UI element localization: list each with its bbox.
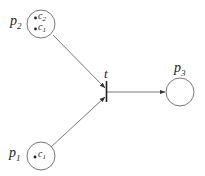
arc-p1-to-t	[51, 97, 105, 147]
svg-text:c1: c1	[38, 148, 46, 161]
arc-p2-to-t	[53, 35, 105, 88]
svg-text:p1: p1	[8, 145, 21, 163]
petri-net-diagram: t p2 c2 c1 p1 c1 p3	[0, 0, 205, 176]
place-p1: p1 c1	[8, 142, 55, 170]
place-p2-label: p	[9, 13, 17, 28]
transition-t-label: t	[104, 66, 108, 81]
token-icon	[34, 17, 37, 20]
place-p1-label: p	[8, 145, 16, 160]
svg-text:p3: p3	[173, 60, 186, 78]
place-p3: p3	[166, 60, 194, 106]
place-p2: p2 c2 c1	[9, 10, 55, 38]
token-icon	[34, 156, 37, 159]
place-p3-label: p	[173, 60, 181, 75]
token-icon	[34, 28, 37, 31]
svg-text:p2: p2	[9, 13, 22, 31]
transition-t: t	[104, 66, 108, 102]
